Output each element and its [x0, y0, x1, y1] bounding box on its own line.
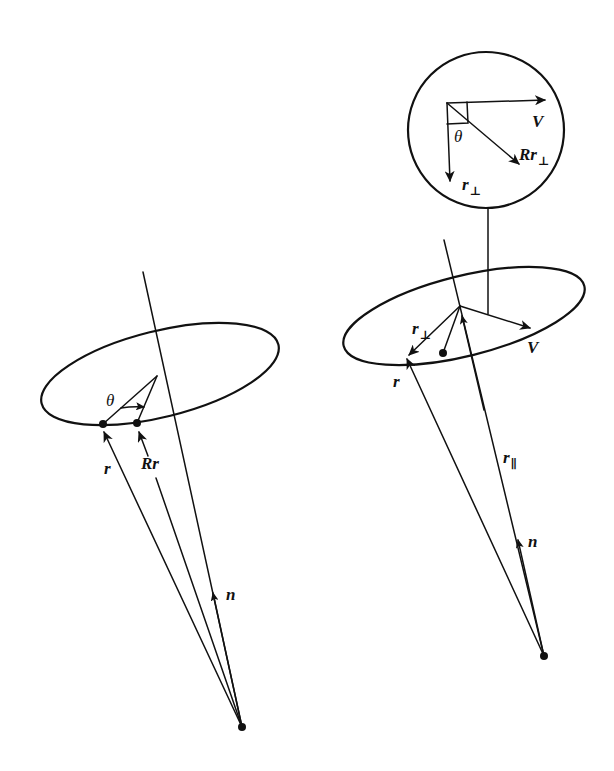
inset-rr-perp-label: Rr⊥ [519, 146, 550, 163]
right-r-vector [407, 359, 544, 656]
right-r-parallel-vector [462, 316, 484, 410]
right-r-parallel-label: r∥ [503, 449, 517, 466]
rotation-diagram [0, 0, 614, 771]
right-rr-radius [443, 306, 460, 353]
left-r-vector [104, 432, 242, 727]
right-v-vector [460, 306, 530, 328]
left-panel [31, 272, 289, 731]
right-rotation-ellipse [334, 247, 594, 385]
right-origin-point [540, 652, 548, 660]
left-n-arrow [213, 593, 242, 727]
left-rr-label: Rr [141, 455, 159, 472]
left-radius-to-rr [137, 376, 157, 423]
left-theta-label: θ [106, 392, 114, 409]
left-origin-point [238, 723, 246, 731]
right-r-label: r [393, 373, 400, 390]
right-r-perp-label: r⊥ [412, 320, 431, 337]
left-rotation-ellipse [31, 303, 289, 445]
inset-v-label: V [532, 113, 543, 130]
inset-v-vector [447, 100, 545, 103]
left-rr-vector-upper [139, 432, 148, 456]
left-r-point [99, 420, 107, 428]
left-theta-arrow [121, 407, 144, 408]
inset-r-perp-vector [447, 103, 450, 181]
right-v-label: V [527, 339, 538, 356]
left-rr-point [133, 419, 141, 427]
left-r-label: r [104, 460, 111, 477]
inset-theta-label: θ [454, 128, 462, 145]
right-rr-point [439, 349, 447, 357]
right-n-arrow [518, 540, 544, 656]
right-n-label: n [528, 533, 537, 550]
inset-r-perp-label: r⊥ [462, 176, 481, 193]
right-panel [334, 52, 594, 660]
right-axis-line [444, 240, 544, 656]
left-n-label: n [226, 586, 235, 603]
